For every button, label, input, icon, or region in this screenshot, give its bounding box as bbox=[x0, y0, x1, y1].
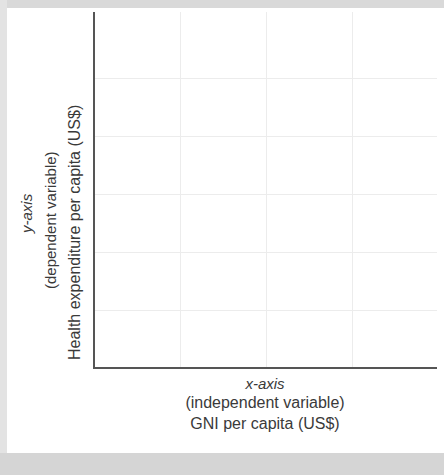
gridline-vertical bbox=[180, 12, 181, 367]
figure-root: y-axis (dependent variable) Health expen… bbox=[0, 0, 444, 475]
y-axis-line bbox=[93, 12, 95, 369]
gridline-horizontal bbox=[93, 194, 437, 195]
gridline-horizontal bbox=[93, 136, 437, 137]
gridline-horizontal bbox=[93, 252, 437, 253]
x-axis-label-block: x-axis (independent variable) GNI per ca… bbox=[93, 374, 437, 434]
gridline-vertical bbox=[266, 12, 267, 367]
gridline-vertical bbox=[352, 12, 353, 367]
y-axis-variable-label: (dependent variable) bbox=[43, 151, 58, 289]
x-axis-line bbox=[93, 367, 437, 369]
chart-figure: y-axis (dependent variable) Health expen… bbox=[7, 8, 444, 453]
y-axis-role-label: y-axis bbox=[19, 194, 34, 233]
x-axis-variable-label: (independent variable) bbox=[93, 393, 437, 413]
gridline-horizontal bbox=[93, 310, 437, 311]
plot-area[interactable] bbox=[93, 12, 437, 367]
scan-margin-left bbox=[0, 0, 7, 475]
gridline-horizontal bbox=[93, 78, 437, 79]
x-axis-role-label: x-axis bbox=[93, 374, 437, 393]
scan-margin-bottom bbox=[0, 453, 444, 475]
y-axis-measure-label: Health expenditure per capita (US$) bbox=[67, 105, 83, 360]
x-axis-measure-label: GNI per capita (US$) bbox=[93, 414, 437, 434]
